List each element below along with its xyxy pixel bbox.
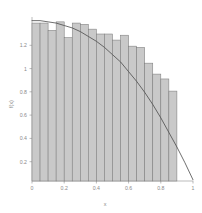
y-tick-label-0.6: 0.6 [20,112,27,118]
x-tick-label-1: 1 [192,185,195,191]
histogram-bar [153,74,161,181]
histogram-bar [169,91,177,181]
histogram-bar [121,35,129,181]
histogram-bar [32,23,40,181]
x-tick-label-0.8: 0.8 [157,185,164,191]
y-axis-ticks [30,45,33,161]
x-tick-label-0: 0 [31,185,34,191]
x-tick-label-0.4: 0.4 [93,185,100,191]
x-tick-label-0.2: 0.2 [61,185,68,191]
chart-figure: 0.2 0.4 0.6 0.8 1 1.2 0 0.2 0.4 0.6 0.8 … [0,0,202,213]
histogram-bar [104,34,112,181]
y-tick-label-0.8: 0.8 [20,89,27,95]
histogram-bars [32,22,177,181]
y-tick-label-1: 1 [24,66,27,72]
histogram-bar [129,46,137,181]
histogram-bar [48,30,56,181]
histogram-bar [56,22,64,181]
histogram-bar [40,23,48,181]
histogram-bar [80,24,88,181]
x-axis-tick-labels: 0 0.2 0.4 0.6 0.8 1 [31,185,195,191]
histogram-density-plot: 0.2 0.4 0.6 0.8 1 1.2 0 0.2 0.4 0.6 0.8 … [0,0,202,213]
y-tick-label-0.4: 0.4 [20,135,27,141]
x-axis-title: x [104,201,107,207]
histogram-bar [72,23,80,181]
histogram-bar [96,34,104,181]
y-tick-label-0.2: 0.2 [20,159,27,165]
x-tick-label-0.6: 0.6 [125,185,132,191]
histogram-bar [88,29,96,181]
histogram-bar [64,38,72,181]
y-axis-title: f(x) [8,100,14,108]
x-axis-ticks [32,181,193,184]
y-axis-tick-labels: 0.2 0.4 0.6 0.8 1 1.2 [20,42,27,164]
y-tick-label-1.2: 1.2 [20,42,27,48]
histogram-bar [145,63,153,181]
histogram-bar [137,47,145,181]
